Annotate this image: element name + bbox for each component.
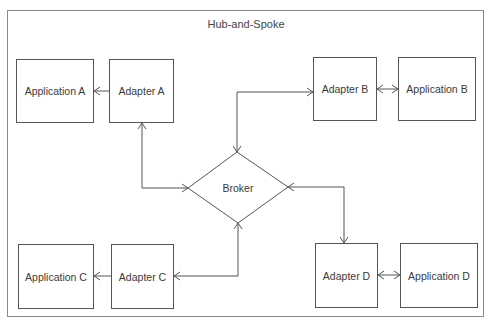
node-label: Application B	[406, 83, 467, 95]
node-adapter-c[interactable]: Adapter C	[111, 244, 174, 309]
node-application-b[interactable]: Application B	[398, 57, 476, 121]
node-label: Adapter D	[323, 270, 370, 282]
edge-broker-adapter-d	[288, 187, 344, 243]
node-application-d[interactable]: Application D	[400, 243, 478, 308]
edge-adapter-a-broker	[142, 123, 188, 188]
node-label: Application D	[408, 270, 470, 282]
broker-label: Broker	[208, 182, 268, 194]
node-label: Application A	[25, 85, 86, 97]
edge-broker-adapter-c	[174, 223, 238, 276]
node-label: Application C	[25, 271, 87, 283]
node-adapter-b[interactable]: Adapter B	[313, 57, 377, 121]
node-label: Adapter C	[119, 271, 166, 283]
node-adapter-d[interactable]: Adapter D	[315, 243, 378, 308]
node-adapter-a[interactable]: Adapter A	[109, 59, 174, 123]
node-label: Adapter A	[118, 85, 164, 97]
diagram-canvas: Hub-and-Spoke	[0, 0, 492, 323]
edge-broker-adapter-b	[237, 92, 313, 152]
node-label: Adapter B	[322, 83, 369, 95]
node-application-c[interactable]: Application C	[18, 244, 94, 309]
node-application-a[interactable]: Application A	[16, 59, 94, 123]
